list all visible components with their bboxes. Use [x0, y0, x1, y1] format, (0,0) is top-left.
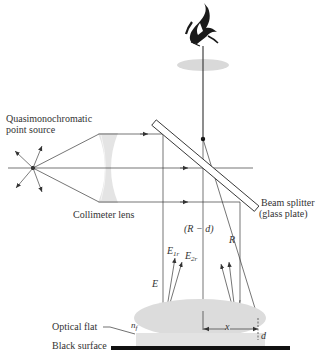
- beam-splitter: [152, 120, 259, 211]
- interferometer-diagram: [0, 0, 318, 356]
- r-minus-d-label: (R − d): [184, 223, 214, 234]
- splitter-label-line1: Beam splitter: [261, 197, 315, 208]
- e2r-label: E2r: [185, 250, 197, 265]
- optical-flat: [136, 333, 265, 346]
- e1r-sub: 1r: [173, 250, 179, 258]
- source-label-line1: Quasimonochromatic: [6, 113, 92, 124]
- x-label: x: [225, 321, 229, 332]
- r-label: R: [229, 234, 235, 245]
- source-rays: [15, 146, 42, 192]
- e2r-sub: 2r: [191, 255, 197, 263]
- source-label-line2: point source: [6, 124, 55, 135]
- splitter-label-line2: (glass plate): [259, 208, 308, 219]
- black-surface: [111, 346, 290, 350]
- optical-flat-label: Optical flat: [52, 321, 97, 332]
- d-label: d: [261, 330, 266, 341]
- e1r-label: E1r: [167, 245, 179, 260]
- nf-label: nf: [131, 320, 137, 334]
- nf-sub: f: [136, 324, 138, 332]
- e-label: E: [152, 278, 158, 289]
- eye-icon: [186, 3, 218, 46]
- black-surface-label: Black surface: [52, 340, 107, 351]
- flat-surface-ellipse: [134, 299, 266, 337]
- lens-label: Collimeter lens: [73, 209, 134, 220]
